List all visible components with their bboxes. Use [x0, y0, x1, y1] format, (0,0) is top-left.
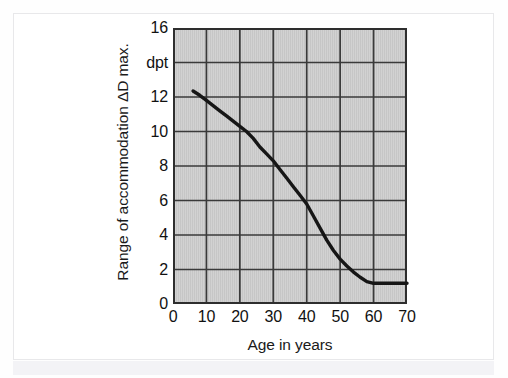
- y-axis-tick-label: 8: [116, 158, 168, 174]
- y-axis-tick-label: 16: [116, 20, 168, 36]
- y-axis-tick-label: 4: [116, 227, 168, 243]
- plot-region: [173, 28, 407, 304]
- grid-lines-horizontal: [173, 63, 407, 270]
- y-axis-tick-label: 10: [116, 124, 168, 140]
- plot-svg: [173, 28, 407, 304]
- y-axis-tick-label: 12: [116, 89, 168, 105]
- data-series-line: [193, 91, 407, 283]
- y-axis-tick-label: dpt: [116, 55, 168, 71]
- x-axis-tick-label: 70: [387, 309, 427, 325]
- y-axis-tick-label: 6: [116, 193, 168, 209]
- x-axis-tick-labels: 010203040506070: [173, 309, 407, 329]
- x-axis-title: Age in years: [173, 336, 407, 354]
- y-axis-tick-label: 2: [116, 262, 168, 278]
- scan-edge-band: [13, 361, 494, 375]
- figure-root: Range of accommodation ΔD max. 024681012…: [0, 0, 508, 378]
- y-axis-tick-labels: 024681012dpt16: [112, 28, 168, 304]
